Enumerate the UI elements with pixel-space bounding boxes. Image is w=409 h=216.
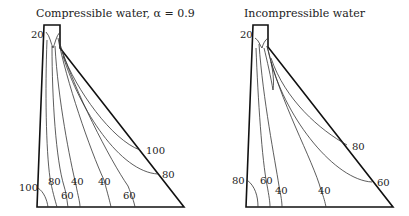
compressible-water-panel: Compressible water, α = 0.9 20 100 80 60… xyxy=(0,0,205,216)
label-c80: 80 xyxy=(48,176,61,187)
label-face60: 60 xyxy=(377,177,390,188)
label-crest: 20 xyxy=(240,29,253,40)
label-crest: 20 xyxy=(31,29,44,40)
contour-crest-20 xyxy=(46,32,60,48)
label-c60b: 60 xyxy=(123,190,136,201)
dam-contour-diagram: 20 100 80 60 40 40 60 100 80 xyxy=(0,0,205,216)
label-c40b: 40 xyxy=(318,185,331,196)
label-c60: 60 xyxy=(260,175,273,186)
label-c40b: 40 xyxy=(98,176,111,187)
label-face100: 100 xyxy=(146,145,165,156)
label-heel: 80 xyxy=(232,175,245,186)
contour-80-heel xyxy=(247,180,258,207)
label-heel: 100 xyxy=(19,182,38,193)
incompressible-water-panel: Incompressible water 20 80 60 40 40 80 6… xyxy=(205,0,409,216)
contour-100-heel xyxy=(38,188,48,207)
label-c60: 60 xyxy=(61,190,74,201)
label-face80: 80 xyxy=(162,169,175,180)
label-c40a: 40 xyxy=(71,176,84,187)
label-c40a: 40 xyxy=(275,185,288,196)
label-face80: 80 xyxy=(352,141,365,152)
contour-60-face xyxy=(271,62,372,182)
dam-contour-diagram: 20 80 60 40 40 80 60 xyxy=(205,0,409,216)
contour-crest-20 xyxy=(255,38,268,48)
contour-80-face xyxy=(271,58,347,145)
